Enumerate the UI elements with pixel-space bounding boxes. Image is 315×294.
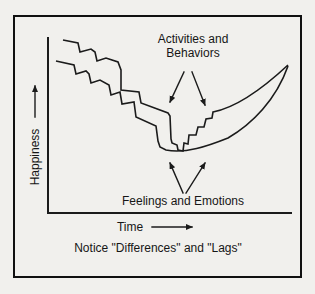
x-axis-label: Time bbox=[110, 220, 150, 234]
series-feelings-line bbox=[56, 61, 288, 151]
figure-caption: Notice "Differences" and "Lags" bbox=[35, 241, 281, 255]
annotation-feelings-emotions: Feelings and Emotions bbox=[118, 194, 248, 208]
annotation-arrow-3-icon bbox=[186, 163, 205, 193]
annotation-activities-line2: Behaviors bbox=[133, 46, 253, 60]
annotation-arrow-1-icon bbox=[192, 72, 205, 105]
y-axis-label: Happiness bbox=[28, 122, 42, 192]
annotation-arrow-2-icon bbox=[170, 163, 183, 193]
annotation-arrow-0-icon bbox=[170, 72, 184, 102]
annotation-activities-line1: Activities and bbox=[133, 32, 253, 46]
figure: Activities and Behaviors Feelings and Em… bbox=[0, 0, 315, 294]
annotation-activities-behaviors: Activities and Behaviors bbox=[133, 32, 253, 60]
